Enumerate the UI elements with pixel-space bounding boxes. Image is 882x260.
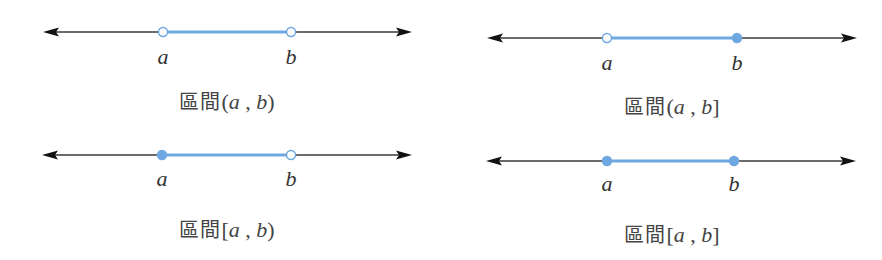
right-bracket: ) [267, 217, 274, 242]
endpoint-label-a: a [158, 44, 169, 69]
caption-word: 區間 [624, 223, 666, 247]
caption-b: b [701, 222, 712, 247]
closed-endpoint-b [730, 157, 739, 166]
open-endpoint-a [159, 28, 168, 37]
number-line-open-interval: ab [43, 28, 412, 70]
right-bracket: ] [712, 94, 719, 119]
separator: , [240, 217, 257, 242]
separator: , [685, 94, 702, 119]
caption-word: 區間 [624, 95, 666, 119]
caption-b: b [701, 94, 712, 119]
number-line-half-open-left-closed: ab [42, 151, 412, 192]
caption-b: b [256, 217, 267, 242]
endpoint-label-b: b [286, 166, 297, 191]
caption-a: a [674, 222, 685, 247]
caption-a: a [229, 89, 240, 114]
caption-word: 區間 [179, 218, 221, 242]
endpoint-label-b: b [732, 50, 743, 75]
caption-a: a [229, 217, 240, 242]
separator: , [685, 222, 702, 247]
caption-open-interval: 區間(a , b) [179, 86, 274, 115]
number-line-closed-interval: ab [486, 157, 856, 197]
caption-half-open-left-closed: 區間[a , b) [179, 214, 274, 243]
caption-half-open-right-closed: 區間(a , b] [624, 91, 719, 120]
endpoint-label-a: a [157, 166, 168, 191]
interval-diagrams: ab ab ab ab [0, 0, 882, 260]
endpoint-label-a: a [602, 171, 613, 196]
closed-endpoint-a [603, 157, 612, 166]
separator: , [240, 89, 257, 114]
endpoint-label-b: b [729, 171, 740, 196]
right-bracket: ) [267, 89, 274, 114]
closed-endpoint-b [733, 34, 742, 43]
number-line-half-open-right-closed: ab [487, 34, 857, 76]
closed-endpoint-a [158, 151, 167, 160]
endpoint-label-b: b [286, 44, 297, 69]
caption-closed-interval: 區間[a , b] [624, 219, 719, 248]
right-bracket: ] [712, 222, 719, 247]
open-endpoint-b [287, 28, 296, 37]
endpoint-label-a: a [602, 50, 613, 75]
caption-a: a [674, 94, 685, 119]
caption-b: b [256, 89, 267, 114]
caption-word: 區間 [179, 90, 221, 114]
open-endpoint-a [603, 34, 612, 43]
open-endpoint-b [287, 151, 296, 160]
